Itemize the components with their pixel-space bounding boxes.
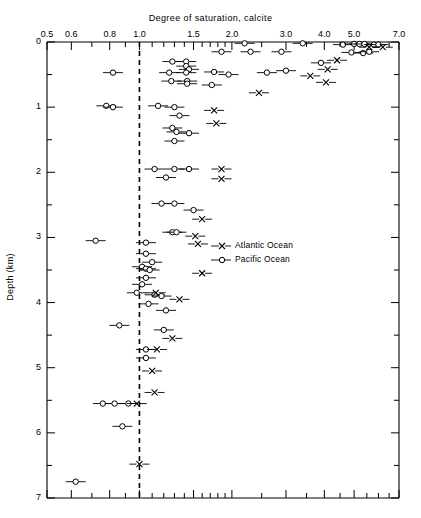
legend-markers (211, 243, 231, 263)
legend-label-pacific-ocean: Pacific Ocean (235, 254, 290, 264)
calcite-saturation-figure: Degree of saturation, calcite Depth (km)… (0, 0, 421, 518)
legend-label-atlantic-ocean: Atlantic Ocean (235, 240, 293, 250)
series-pacific-ocean (66, 41, 389, 485)
plot-area (0, 0, 421, 518)
